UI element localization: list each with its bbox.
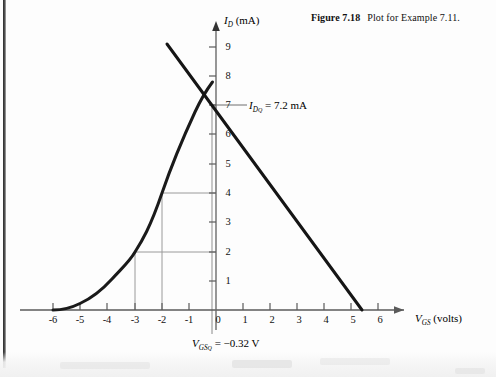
x-axis-arrow-icon bbox=[394, 306, 404, 314]
vgsq-subscript: GS bbox=[199, 344, 208, 352]
y-tick-label: 2 bbox=[220, 246, 236, 257]
x-tick-label: 4 bbox=[318, 314, 334, 325]
y-tick-label: 6 bbox=[220, 128, 236, 139]
y-tick-label: 7 bbox=[220, 99, 236, 110]
x-axis-unit: (volts) bbox=[433, 312, 462, 324]
idq-subscript-q: Q bbox=[258, 107, 262, 113]
x-tick-label: 0 bbox=[210, 314, 226, 325]
x-axis-subscript: GS bbox=[422, 319, 431, 327]
x-tick-label: 1 bbox=[237, 314, 253, 325]
y-tick-label: 8 bbox=[220, 70, 236, 81]
x-axis-label: VGS (volts) bbox=[415, 312, 462, 327]
y-axis-arrow-icon bbox=[212, 21, 220, 31]
x-tick-label: -1 bbox=[181, 314, 197, 325]
x-tick-label: 3 bbox=[291, 314, 307, 325]
y-tick-label: 4 bbox=[220, 187, 236, 198]
figure-page: Figure 7.18Plot for Example 7.11. bbox=[0, 0, 496, 377]
x-tick-label: 2 bbox=[264, 314, 280, 325]
x-tick-label: -6 bbox=[45, 314, 61, 325]
y-tick-label: 3 bbox=[220, 216, 236, 227]
y-axis bbox=[209, 21, 220, 330]
vgsq-value: = −0.32 V bbox=[215, 337, 260, 349]
y-tick-label: 5 bbox=[220, 158, 236, 169]
vgsq-annotation: VGSQ = −0.32 V bbox=[192, 337, 260, 352]
vgsq-symbol: V bbox=[192, 337, 199, 349]
x-tick-label: -3 bbox=[127, 314, 143, 325]
idq-annotation: IDQ = 7.2 mA bbox=[249, 99, 307, 114]
transfer-curve bbox=[53, 82, 213, 310]
vgsq-subscript-q: Q bbox=[208, 345, 212, 351]
idq-value: = 7.2 mA bbox=[265, 99, 307, 111]
y-axis-unit: (mA) bbox=[236, 14, 260, 26]
x-axis-symbol: V bbox=[415, 312, 422, 324]
y-tick-label: 9 bbox=[220, 41, 236, 52]
y-axis-label: ID (mA) bbox=[224, 14, 259, 29]
y-axis-subscript: D bbox=[228, 21, 233, 29]
x-tick-label: 5 bbox=[345, 314, 361, 325]
load-line bbox=[167, 44, 362, 310]
y-tick-label: 1 bbox=[220, 275, 236, 286]
x-tick-label: -5 bbox=[72, 314, 88, 325]
x-tick-label: -2 bbox=[154, 314, 170, 325]
x-tick-label: -4 bbox=[99, 314, 115, 325]
x-tick-label: 6 bbox=[372, 314, 388, 325]
